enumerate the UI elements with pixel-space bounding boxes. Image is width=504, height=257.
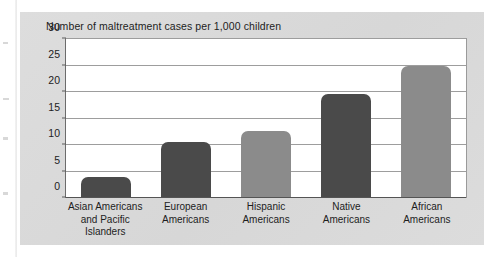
x-axis-category-label: AfricanAmericans (387, 201, 467, 239)
bar[interactable] (241, 131, 291, 198)
x-axis-category-label-line: Americans (226, 214, 306, 227)
bar-slot (226, 39, 306, 198)
scan-speck (3, 137, 8, 140)
x-axis-category-label-line: European (145, 201, 225, 214)
bar-slot (386, 39, 466, 198)
x-axis-category-label-line: Islanders (65, 226, 145, 239)
y-axis-tick-mark (62, 91, 66, 92)
scan-speck (3, 192, 8, 195)
y-axis-tick-label: 25 (48, 48, 60, 60)
scan-speck (3, 98, 9, 100)
scan-speck (3, 42, 8, 44)
y-axis-tick-mark (62, 170, 66, 171)
bar[interactable] (161, 142, 211, 198)
x-axis-category-label: EuropeanAmericans (145, 201, 225, 239)
y-axis-tick-label: 20 (48, 74, 60, 86)
bar[interactable] (321, 94, 371, 198)
x-axis-label-group: Asian Americansand PacificIslandersEurop… (65, 201, 467, 239)
y-axis-tick-label: 30 (48, 21, 60, 33)
x-axis-category-label: HispanicAmericans (226, 201, 306, 239)
x-axis-category-label-line: Native (306, 201, 386, 214)
y-axis-tick-label: 15 (48, 101, 60, 113)
y-axis-tick-mark (62, 38, 66, 39)
plot-wrapper: 051015202530 (65, 38, 467, 198)
x-axis-category-label-line: Americans (145, 214, 225, 227)
x-axis-line (66, 197, 466, 198)
page-gutter-line (15, 0, 17, 257)
bar-slot (146, 39, 226, 198)
x-axis-category-label-line: Asian Americans (65, 201, 145, 214)
figure-panel: Number of maltreatment cases per 1,000 c… (20, 12, 484, 245)
y-axis-tick-mark (62, 64, 66, 65)
page-edge-artifact (0, 0, 18, 257)
y-axis-tick-label: 5 (54, 154, 60, 166)
bar-slot (66, 39, 146, 198)
bar[interactable] (401, 66, 451, 199)
x-axis-category-label: NativeAmericans (306, 201, 386, 239)
x-axis-category-label-line: Hispanic (226, 201, 306, 214)
x-axis-category-label-line: and Pacific (65, 214, 145, 227)
y-axis-tick-mark (62, 117, 66, 118)
x-axis-category-label-line: Americans (306, 214, 386, 227)
plot-area: 051015202530 (65, 38, 467, 198)
bar-slot (306, 39, 386, 198)
y-axis-tick-mark (62, 144, 66, 145)
bar[interactable] (81, 177, 131, 198)
y-axis-tick-label: 0 (54, 180, 60, 192)
x-axis-category-label-line: Americans (387, 214, 467, 227)
bar-group (66, 39, 466, 198)
x-axis-category-label: Asian Americansand PacificIslanders (65, 201, 145, 239)
y-axis-tick-mark (62, 197, 66, 198)
x-axis-category-label-line: African (387, 201, 467, 214)
chart-title: Number of maltreatment cases per 1,000 c… (46, 20, 281, 32)
y-axis-tick-label: 10 (48, 127, 60, 139)
